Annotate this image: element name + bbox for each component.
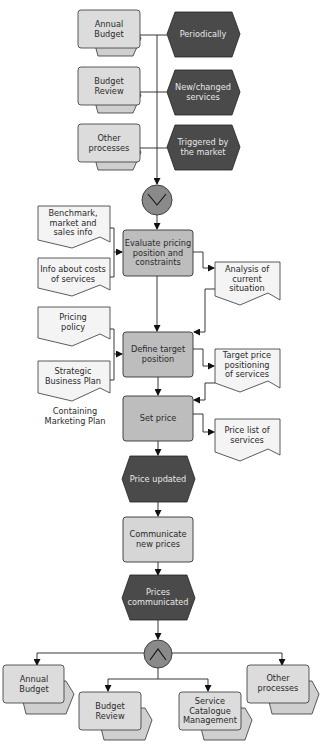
document-info-about-costs[interactable]: Info about costsof services (38, 258, 110, 296)
event-new-changed-services[interactable]: New/changedservices (167, 70, 240, 115)
pricing-process-diagram: AnnualBudget BudgetReview Otherprocesses… (0, 0, 321, 750)
label: AnnualBudget (94, 19, 124, 39)
event-triggered-by-market[interactable]: Triggered bythe market (167, 125, 240, 170)
svg-text:Triggered bythe market: Triggered bythe market (177, 137, 229, 157)
end-interface-service-catalogue[interactable]: ServiceCatalogueManagement (179, 692, 252, 740)
trunk-lines (140, 35, 167, 184)
document-target-price-positioning[interactable]: Target pricepositioningof services (215, 349, 280, 392)
svg-text:AnnualBudget: AnnualBudget (19, 674, 49, 694)
event-price-updated[interactable]: Price updated (122, 456, 195, 502)
event-periodically[interactable]: Periodically (167, 12, 240, 57)
start-interface-other-processes[interactable]: Otherprocesses (78, 124, 141, 170)
document-strategic-business-plan[interactable]: StrategicBusiness Plan (38, 361, 110, 401)
svg-text:Price updated: Price updated (130, 474, 187, 484)
output-lines (193, 252, 215, 432)
svg-text:Set price: Set price (140, 413, 176, 423)
svg-text:Periodically: Periodically (180, 29, 227, 39)
start-interface-budget-review[interactable]: BudgetReview (78, 67, 141, 113)
function-communicate-prices[interactable]: Communicatenew prices (123, 517, 193, 562)
event-prices-communicated[interactable]: Pricescommunicated (122, 575, 195, 620)
annotation-marketing-plan: ContainingMarketing Plan (45, 406, 106, 426)
document-pricing-policy[interactable]: Pricingpolicy (38, 307, 110, 346)
start-interface-annual-budget[interactable]: AnnualBudget (78, 10, 141, 56)
svg-text:BudgetReview: BudgetReview (94, 76, 124, 96)
document-benchmark[interactable]: Benchmark,market andsales info (38, 206, 110, 248)
function-define-target[interactable]: Define targetposition (123, 332, 193, 377)
function-set-price[interactable]: Set price (123, 396, 193, 441)
svg-text:Communicatenew prices: Communicatenew prices (129, 529, 186, 549)
svg-text:BudgetReview: BudgetReview (95, 701, 125, 721)
function-evaluate-pricing[interactable]: Evaluate pricingposition andconstraints (123, 230, 193, 276)
svg-text:Price list ofservices: Price list ofservices (224, 425, 270, 445)
and-connector[interactable]: AND (144, 640, 172, 668)
document-price-list[interactable]: Price list ofservices (215, 419, 280, 461)
svg-text:Benchmark,market andsales info: Benchmark,market andsales info (48, 208, 97, 237)
end-interface-annual-budget[interactable]: AnnualBudget (3, 665, 74, 714)
svg-text:Target pricepositioningof serv: Target pricepositioningof services (222, 350, 271, 379)
end-interface-other-processes[interactable]: Otherprocesses (247, 665, 319, 714)
end-interface-budget-review[interactable]: BudgetReview (79, 692, 152, 740)
document-analysis-current-situation[interactable]: Analysis ofcurrentsituation (215, 262, 280, 305)
xor-connector[interactable]: XOR (142, 185, 172, 215)
input-lines (110, 228, 122, 380)
svg-text:Pricingpolicy: Pricingpolicy (59, 312, 87, 332)
